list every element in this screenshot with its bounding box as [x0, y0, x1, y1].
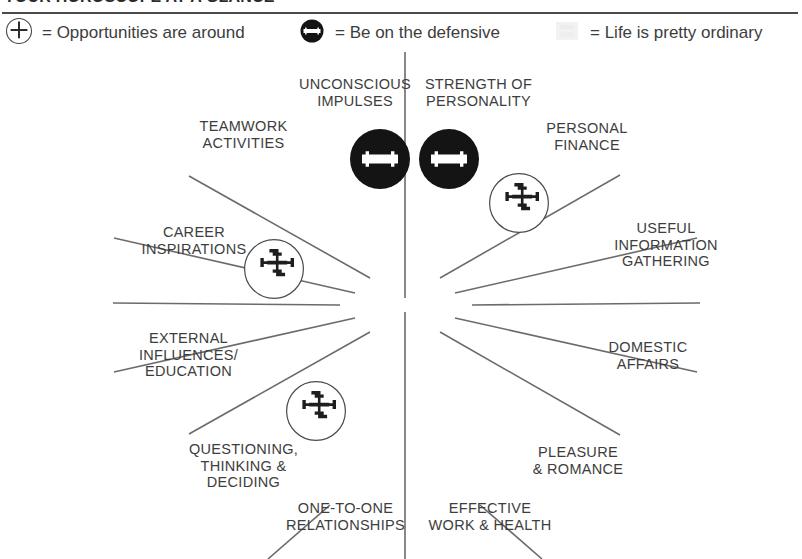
legend-label-opportunities: = Opportunities are around — [42, 23, 245, 43]
sector-label-unconscious-impulses: UNCONSCIOUS IMPULSES — [295, 76, 415, 109]
marker-plus-personal-finance — [488, 172, 550, 238]
marker-minus-strength-of-personality — [418, 128, 480, 194]
sector-label-personal-finance: PERSONAL FINANCE — [527, 120, 647, 153]
spoke-9 — [113, 303, 340, 305]
sector-label-strength-of-personality: STRENGTH OF PERSONALITY — [416, 76, 541, 109]
sector-label-external-influences: EXTERNAL INFLUENCES/ EDUCATION — [121, 330, 256, 380]
spoke-3 — [472, 303, 700, 305]
minus-in-black-circle-icon — [297, 16, 327, 50]
horoscope-wheel: UNCONSCIOUS IMPULSES STRENGTH OF PERSONA… — [0, 50, 802, 559]
legend-label-ordinary: = Life is pretty ordinary — [590, 23, 762, 43]
legend-label-defensive: = Be on the defensive — [335, 23, 500, 43]
blank-faint-icon — [552, 16, 582, 50]
page-title: YOUR HOROSCOPE AT A GLANCE — [4, 0, 275, 6]
legend: = Opportunities are around = Be on the d… — [0, 16, 802, 52]
legend-item-opportunities: = Opportunities are around — [4, 16, 245, 50]
sector-label-domestic-affairs: DOMESTIC AFFAIRS — [584, 339, 712, 372]
marker-plus-questioning-thinking — [285, 380, 347, 446]
page-title-bar: YOUR HOROSCOPE AT A GLANCE — [0, 0, 802, 9]
sector-label-one-to-one: ONE-TO-ONE RELATIONSHIPS — [278, 500, 413, 533]
sector-label-pleasure-romance: PLEASURE & ROMANCE — [513, 444, 643, 477]
sector-label-effective-work-health: EFFECTIVE WORK & HEALTH — [420, 500, 560, 533]
plus-in-circle-icon — [4, 16, 34, 50]
wheel-spokes — [0, 50, 802, 559]
marker-plus-career-inspirations — [243, 238, 305, 304]
sector-label-questioning-thinking: QUESTIONING, THINKING & DECIDING — [176, 441, 311, 491]
sector-label-useful-information: USEFUL INFORMATION GATHERING — [596, 220, 736, 270]
legend-item-defensive: = Be on the defensive — [297, 16, 500, 50]
marker-minus-unconscious-impulses — [349, 128, 411, 194]
legend-item-ordinary: = Life is pretty ordinary — [552, 16, 762, 50]
sector-label-teamwork-activities: TEAMWORK ACTIVITIES — [176, 118, 311, 151]
horoscope-wheel-page: YOUR HOROSCOPE AT A GLANCE = Opportuniti… — [0, 0, 802, 559]
title-divider — [2, 12, 798, 14]
sector-label-career-inspirations: CAREER INSPIRATIONS — [129, 224, 259, 257]
